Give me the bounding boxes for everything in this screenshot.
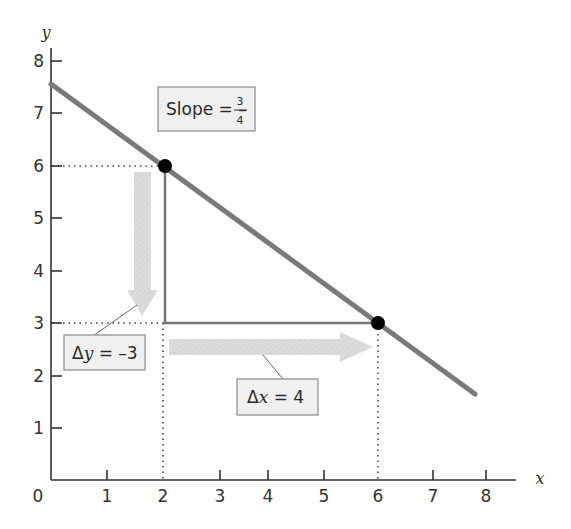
x-tick-label: 1 <box>102 486 113 506</box>
delta-y-leader <box>93 305 137 336</box>
y-tick-label: 1 <box>33 418 44 438</box>
y-tick-labels: 8 7 6 5 4 3 2 1 <box>33 51 44 438</box>
x-tick-label: 5 <box>319 486 330 506</box>
x-axis-title: x <box>535 469 544 488</box>
delta-y-arrow <box>127 172 158 316</box>
x-tick-label: 4 <box>263 486 274 506</box>
y-tick-label: 2 <box>33 366 44 386</box>
y-ticks <box>51 61 62 428</box>
delta-x-arrow <box>169 332 373 362</box>
slope-numerator: 3 <box>237 95 244 108</box>
y-tick-label: 8 <box>33 51 44 71</box>
slope-denominator: 4 <box>237 114 244 127</box>
x-tick-labels: 0 1 2 3 4 5 6 7 8 <box>33 486 492 506</box>
point-6-3 <box>371 316 385 330</box>
x-tick-label: 2 <box>158 486 169 506</box>
x-tick-label: 0 <box>33 486 44 506</box>
y-tick-label: 6 <box>33 156 44 176</box>
x-tick-label: 3 <box>215 486 226 506</box>
delta-x-leader <box>263 355 283 379</box>
slope-label-prefix: Slope = – <box>166 99 247 119</box>
slope-label-box: Slope = – 3 4 <box>158 87 255 131</box>
delta-y-label: Δy = –3 <box>72 343 138 363</box>
x-tick-label: 6 <box>373 486 384 506</box>
y-tick-label: 4 <box>33 261 44 281</box>
y-axis-title: y <box>40 23 51 42</box>
delta-x-label-box: Δx = 4 <box>237 379 318 415</box>
delta-x-label: Δx = 4 <box>247 387 304 407</box>
y-tick-label: 5 <box>33 208 44 228</box>
x-tick-label: 8 <box>481 486 492 506</box>
point-2-6 <box>158 159 172 173</box>
y-tick-label: 3 <box>33 313 44 333</box>
slope-chart: 8 7 6 5 4 3 2 1 0 1 2 3 4 5 6 7 8 y x <box>0 0 571 529</box>
x-ticks <box>107 470 486 480</box>
delta-y-label-box: Δy = –3 <box>64 335 145 370</box>
y-tick-label: 7 <box>33 103 44 123</box>
x-tick-label: 7 <box>428 486 439 506</box>
